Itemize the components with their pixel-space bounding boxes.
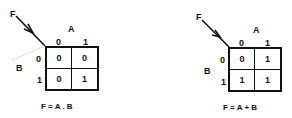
row-header-1: 1 [37, 75, 42, 85]
row-header-0: 0 [36, 54, 41, 64]
output-label: F [196, 12, 202, 22]
output-label: F [10, 9, 16, 19]
cell-b1-a0: 0 [47, 69, 72, 90]
cell-b1-a0: 1 [230, 70, 255, 91]
cell-b0-a1: 1 [255, 49, 280, 70]
cell-b1-a1: 1 [72, 69, 97, 90]
row-variable-label: B [204, 66, 211, 76]
karnaugh-map-and: F A B 0 1 0 1 0 0 0 1 F = A . B [0, 0, 146, 118]
cell-b0-a1: 0 [72, 48, 97, 69]
karnaugh-map-or: F A B 0 1 0 1 0 1 1 1 F = A + B [146, 0, 292, 118]
cell-b1-a1: 1 [255, 70, 280, 91]
row-header-0: 0 [220, 55, 225, 65]
row-variable-label: B [16, 63, 23, 73]
truth-grid: 0 0 0 1 [45, 46, 99, 91]
column-variable-label: A [68, 24, 75, 34]
column-variable-label: A [253, 25, 260, 35]
truth-grid: 0 1 1 1 [228, 47, 282, 92]
cell-b0-a0: 0 [230, 49, 255, 70]
equation: F = A . B [41, 102, 73, 111]
equation: F = A + B [223, 103, 257, 112]
cell-b0-a0: 0 [47, 48, 72, 69]
row-header-1: 1 [221, 77, 226, 87]
